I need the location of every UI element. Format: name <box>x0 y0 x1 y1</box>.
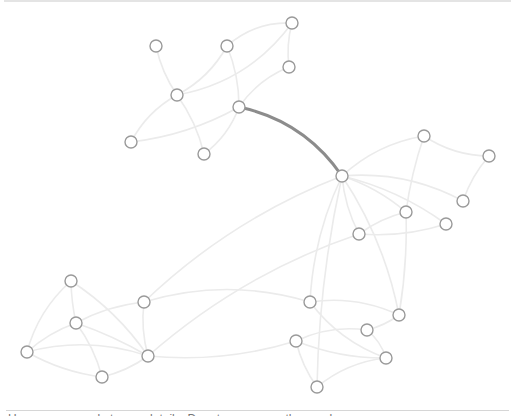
graph-node[interactable] <box>361 324 373 336</box>
edge <box>239 67 289 107</box>
graph-node[interactable] <box>457 195 469 207</box>
graph-node[interactable] <box>393 309 405 321</box>
edge <box>296 329 367 341</box>
graph-node[interactable] <box>142 350 154 362</box>
edge <box>424 136 489 156</box>
node-layer <box>21 17 495 393</box>
edge <box>177 46 227 95</box>
graph-node[interactable] <box>353 228 365 240</box>
edge <box>156 46 177 95</box>
edge <box>317 358 386 387</box>
graph-node[interactable] <box>380 352 392 364</box>
graph-node[interactable] <box>21 346 33 358</box>
graph-node[interactable] <box>286 17 298 29</box>
graph-node[interactable] <box>70 317 82 329</box>
edge <box>148 341 296 358</box>
graph-node[interactable] <box>283 61 295 73</box>
edge <box>463 156 489 201</box>
edge <box>296 341 386 358</box>
graph-node[interactable] <box>125 136 137 148</box>
edge <box>27 352 102 377</box>
network-graph[interactable] <box>0 0 515 410</box>
footer-caption: Hover over a node to see details. Drag t… <box>8 412 340 416</box>
edge <box>342 176 359 234</box>
graph-node[interactable] <box>96 371 108 383</box>
edge <box>102 356 148 377</box>
edge <box>144 290 310 302</box>
edge <box>342 176 399 315</box>
graph-node[interactable] <box>150 40 162 52</box>
graph-node[interactable] <box>400 206 412 218</box>
graph-node[interactable] <box>304 296 316 308</box>
graph-node[interactable] <box>336 170 348 182</box>
graph-node[interactable] <box>418 130 430 142</box>
edge <box>27 281 71 352</box>
graph-node[interactable] <box>138 296 150 308</box>
graph-node[interactable] <box>440 218 452 230</box>
bottom-divider <box>6 410 509 411</box>
edge <box>342 136 424 176</box>
graph-node[interactable] <box>221 40 233 52</box>
graph-node[interactable] <box>65 275 77 287</box>
graph-node[interactable] <box>290 335 302 347</box>
edge <box>359 212 406 234</box>
graph-node[interactable] <box>233 101 245 113</box>
graph-node[interactable] <box>483 150 495 162</box>
graph-node[interactable] <box>198 148 210 160</box>
edge-highlighted <box>239 107 342 176</box>
graph-node[interactable] <box>171 89 183 101</box>
edge <box>310 300 399 315</box>
edge <box>399 212 406 315</box>
edge-layer <box>27 23 489 387</box>
edge <box>143 302 148 356</box>
edge <box>204 107 239 154</box>
graph-node[interactable] <box>311 381 323 393</box>
